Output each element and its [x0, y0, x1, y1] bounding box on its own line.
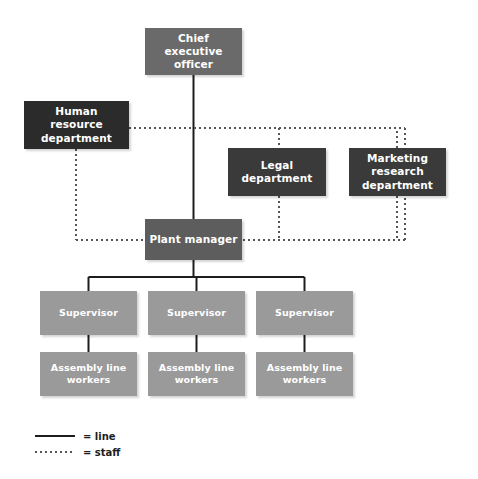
node-assembly-line-workers-1[interactable]: Assembly line workers: [40, 352, 137, 396]
node-label-plant-manager: Plant manager: [145, 233, 241, 246]
node-legal-department[interactable]: Legal department: [228, 148, 326, 196]
legend-dotted-line-swatch: [33, 447, 77, 457]
node-assembly-line-workers-3[interactable]: Assembly line workers: [256, 352, 353, 396]
node-label-assembly-line-workers-1: Assembly line workers: [47, 362, 131, 386]
legend-label-staff: = staff: [83, 447, 120, 458]
legend-item-staff: = staff: [33, 444, 163, 460]
org-chart: Chief executive officer Human resource d…: [0, 0, 478, 479]
node-marketing-research-department[interactable]: Marketing research department: [349, 148, 446, 196]
node-label-hr: Human resource department: [24, 105, 129, 144]
node-supervisor-3[interactable]: Supervisor: [256, 291, 353, 335]
node-label-assembly-line-workers-2: Assembly line workers: [155, 362, 239, 386]
node-label-assembly-line-workers-3: Assembly line workers: [263, 362, 347, 386]
node-label-supervisor-1: Supervisor: [55, 307, 122, 319]
legend-label-line: = line: [83, 431, 116, 442]
node-assembly-line-workers-2[interactable]: Assembly line workers: [148, 352, 245, 396]
legend: = line = staff: [33, 428, 163, 460]
node-supervisor-1[interactable]: Supervisor: [40, 291, 137, 335]
node-label-ceo: Chief executive officer: [145, 32, 242, 71]
node-human-resource-department[interactable]: Human resource department: [24, 101, 129, 149]
legend-solid-line-swatch: [33, 431, 77, 441]
node-chief-executive-officer[interactable]: Chief executive officer: [145, 28, 242, 75]
node-label-marketing: Marketing research department: [358, 152, 437, 191]
node-label-legal: Legal department: [238, 159, 317, 185]
node-label-supervisor-2: Supervisor: [163, 307, 230, 319]
node-supervisor-2[interactable]: Supervisor: [148, 291, 245, 335]
legend-item-line: = line: [33, 428, 163, 444]
node-label-supervisor-3: Supervisor: [271, 307, 338, 319]
node-plant-manager[interactable]: Plant manager: [145, 219, 242, 260]
